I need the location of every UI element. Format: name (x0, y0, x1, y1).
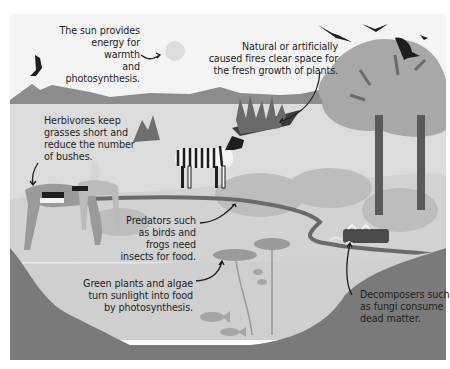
fire-annotation: Natural or artificially caused fires cle… (208, 41, 338, 77)
sun-icon (165, 41, 185, 61)
plants-annotation: Green plants and algae turn sunlight int… (82, 278, 193, 314)
bottom-ground (10, 345, 446, 360)
predators-annotation: Predators such as birds and frogs need i… (120, 215, 196, 263)
sun-annotation: The sun provides energy for warmth and p… (55, 25, 140, 85)
decomposers-annotation: Decomposers such as fungi consume dead m… (360, 289, 450, 325)
herbivores-annotation: Herbivores keep grasses short and reduce… (44, 115, 144, 163)
